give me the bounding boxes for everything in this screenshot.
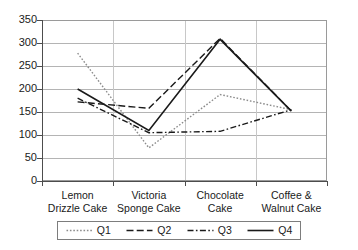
x-axis-label-line: Coffee &	[256, 189, 327, 202]
legend-swatch-q4-icon	[247, 226, 274, 235]
series-line-q3	[78, 98, 292, 133]
legend-label: Q1	[97, 225, 111, 236]
legend-item-q3[interactable]: Q3	[187, 225, 232, 236]
x-axis-label-line: Victoria	[113, 189, 184, 202]
legend-item-q4[interactable]: Q4	[247, 225, 292, 236]
x-axis-label-line: Walnut Cake	[256, 202, 327, 215]
x-axis-label-line: Cake	[185, 202, 256, 215]
legend-swatch-q3-icon	[187, 226, 214, 235]
x-axis-label-line: Chocolate	[185, 189, 256, 202]
legend-item-q1[interactable]: Q1	[66, 225, 111, 236]
legend-swatch-q2-icon	[126, 226, 153, 235]
series-line-q4	[78, 39, 292, 130]
chart-legend: Q1Q2Q3Q4	[57, 221, 301, 240]
x-axis-label-line: Sponge Cake	[113, 202, 184, 215]
legend-label: Q3	[218, 225, 232, 236]
x-axis-category-label: ChocolateCake	[185, 189, 256, 214]
series-line-q2	[78, 38, 292, 111]
x-axis-category-label: Coffee &Walnut Cake	[256, 189, 327, 214]
legend-label: Q2	[157, 225, 171, 236]
x-axis-label-line: Lemon	[42, 189, 113, 202]
x-axis-category-label: VictoriaSponge Cake	[113, 189, 184, 214]
legend-label: Q4	[278, 225, 292, 236]
x-axis-category-label: LemonDrizzle Cake	[42, 189, 113, 214]
series-line-q1	[78, 53, 292, 148]
line-chart: 350300250200150100500 LemonDrizzle CakeV…	[0, 0, 358, 250]
legend-swatch-q1-icon	[66, 226, 93, 235]
legend-item-q2[interactable]: Q2	[126, 225, 171, 236]
x-axis-label-line: Drizzle Cake	[42, 202, 113, 215]
